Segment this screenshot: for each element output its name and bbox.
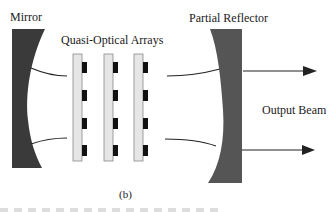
output-arrow [242,145,315,155]
mirror-shape [12,29,45,168]
arrays-label: Quasi-Optical Arrays [61,33,163,48]
figure-caption: (b) [119,188,132,200]
mirror-label: Mirror [10,10,42,25]
beam-line [31,138,67,144]
partial-reflector-label: Partial Reflector [189,11,268,26]
output-beam-label: Output Beam [262,103,326,118]
partial-reflector-shape [208,29,242,183]
beam-line [31,68,67,76]
beam-line [167,69,220,76]
array-panel [134,54,148,161]
output-arrow [243,66,317,76]
array-panel [73,54,87,161]
truncated-text-line [0,208,220,212]
array-panel [104,54,118,161]
beam-line [165,139,216,146]
